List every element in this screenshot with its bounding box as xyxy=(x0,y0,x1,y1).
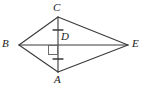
vertex-label-a: A xyxy=(54,74,61,85)
geometry-diagram-svg xyxy=(0,0,145,88)
edge-EA xyxy=(58,45,128,72)
geometry-figure: B C E A D xyxy=(0,0,145,88)
vertex-label-e: E xyxy=(132,38,139,49)
right-angle-mark-icon xyxy=(49,46,58,55)
edge-AB xyxy=(19,45,58,72)
vertex-label-c: C xyxy=(53,2,60,13)
vertex-label-d: D xyxy=(61,31,69,42)
edge-BC xyxy=(19,17,58,45)
vertex-label-b: B xyxy=(2,38,9,49)
